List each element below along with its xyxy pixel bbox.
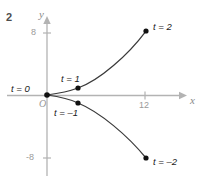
x-axis-arrow — [179, 92, 187, 99]
curve-upper-branch — [47, 31, 146, 95]
data-point-t-1 — [75, 85, 80, 90]
annotation-t-minus-1: t = –1 — [54, 108, 78, 118]
annotation-t-1: t = 1 — [61, 74, 80, 84]
x-axis-label: x — [190, 95, 195, 106]
y-tick-label-8: 8 — [31, 28, 36, 37]
annotation-t-minus-2: t = –2 — [153, 157, 177, 167]
data-point-t-2 — [143, 28, 148, 33]
origin-label: O — [39, 99, 46, 109]
y-axis-label: y — [39, 9, 44, 20]
x-tick-label-12: 12 — [139, 101, 149, 110]
data-point-t-minus-2 — [143, 155, 148, 160]
y-axis-arrow — [43, 16, 50, 24]
figure-container: 2 y x 8 -8 12 O t = 2 t = 1 t = 0 t = –1… — [0, 0, 205, 180]
figure-number: 2 — [6, 12, 12, 23]
annotation-t-0: t = 0 — [11, 84, 30, 94]
y-tick-label-minus-8: -8 — [26, 153, 34, 162]
curve-lower-branch — [47, 95, 146, 158]
data-point-t-0 — [44, 92, 50, 98]
annotation-t-2: t = 2 — [153, 22, 172, 32]
data-point-t-minus-1 — [75, 100, 80, 105]
